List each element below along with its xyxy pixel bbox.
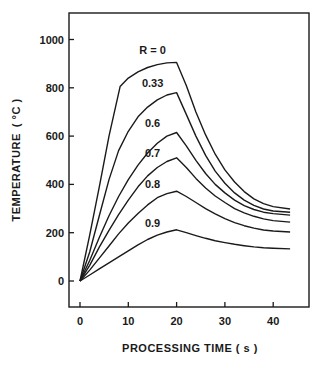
series-label-1: 0.33 [142,77,163,89]
y-axis-title-unit: ( °C ) [10,98,22,127]
x-tick-label: 0 [77,315,83,327]
x-tick-label: 20 [170,315,182,327]
x-axis-title: PROCESSING TIME ( s ) [122,342,258,354]
x-tick-label: 40 [267,315,279,327]
series-lines [80,62,290,281]
y-tick-label: 0 [58,275,64,287]
y-tick-label: 200 [46,227,64,239]
series-line-4 [80,191,290,281]
series-line-5 [80,230,290,281]
x-tick-label: 30 [219,315,231,327]
series-line-3 [80,158,290,281]
y-tick-label: 1000 [40,34,64,46]
y-tick-label: 400 [46,178,64,190]
svg-text:TEMPERATURE( °C ): TEMPERATURE( °C ) [10,98,22,221]
temperature-vs-time-chart: 010203040 02004006008001000 R = 00.330.6… [0,0,321,365]
series-label-3: 0.7 [145,147,160,159]
series-label-5: 0.9 [145,217,160,229]
series-label-0: R = 0 [139,44,166,56]
x-axis-ticks: 010203040 [77,302,279,327]
x-tick-label: 10 [122,315,134,327]
y-axis-title: TEMPERATURE( °C ) [10,98,22,221]
y-tick-label: 800 [46,82,64,94]
y-tick-label: 600 [46,130,64,142]
series-label-4: 0.8 [145,178,160,190]
y-axis-title-main: TEMPERATURE [10,133,22,221]
series-label-2: 0.6 [145,117,160,129]
series-line-1 [80,93,290,281]
